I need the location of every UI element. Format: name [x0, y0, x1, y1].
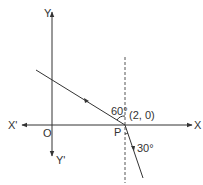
angle-60-label: 60°	[111, 106, 128, 117]
diagram-canvas	[0, 0, 203, 185]
refracted-arrow-icon	[131, 146, 135, 151]
y-pos-label: Y	[44, 8, 51, 19]
x-pos-label: X	[194, 120, 201, 131]
point-label: P	[114, 127, 121, 138]
origin-label: O	[43, 128, 52, 139]
angle-30-label: 30°	[137, 143, 154, 154]
x-neg-label: X'	[8, 120, 17, 131]
point-coords: (2, 0)	[129, 110, 155, 121]
y-neg-label: Y'	[56, 155, 65, 166]
